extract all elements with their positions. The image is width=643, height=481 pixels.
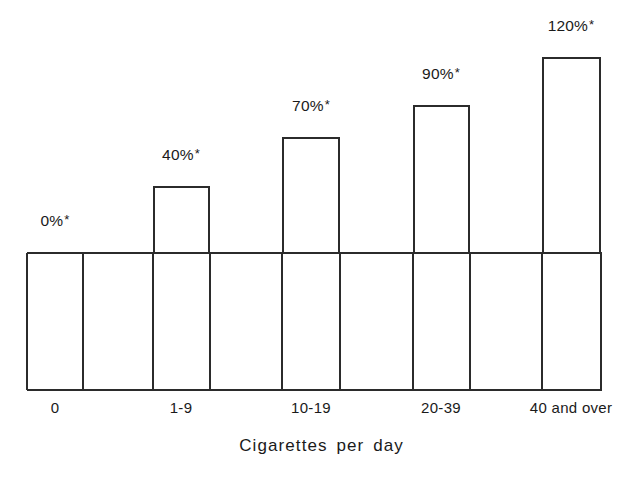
bar-40-and-over xyxy=(542,57,601,253)
value-label-10-19: 70%* xyxy=(292,97,330,115)
bar-1-9 xyxy=(153,186,210,253)
footnote-asterisk-icon: * xyxy=(195,146,200,161)
value-label-text: 40% xyxy=(162,146,194,163)
value-label-1-9: 40%* xyxy=(162,146,200,164)
chart-figure: 0%*40%*70%*90%*120%* 01-910-1920-3940 an… xyxy=(0,0,643,481)
grid-vline xyxy=(412,253,414,390)
bar-20-39 xyxy=(413,105,470,253)
grid-vline xyxy=(339,253,341,390)
category-label-10-19: 10-19 xyxy=(291,399,331,416)
plot-area: 0%*40%*70%*90%*120%* 01-910-1920-3940 an… xyxy=(0,0,643,481)
category-label-20-39: 20-39 xyxy=(421,399,461,416)
value-label-text: 90% xyxy=(422,65,454,82)
x-axis-title: Cigarettes per day xyxy=(0,436,643,456)
value-label-20-39: 90%* xyxy=(422,65,460,83)
footnote-asterisk-icon: * xyxy=(455,65,460,80)
grid-vline xyxy=(281,253,283,390)
bar-10-19 xyxy=(282,137,340,253)
grid-vline xyxy=(82,253,84,390)
grid-vline xyxy=(541,253,543,390)
category-label-0: 0 xyxy=(51,399,60,416)
value-label-text: 120% xyxy=(548,17,588,34)
grid-vline xyxy=(26,253,28,390)
value-label-0: 0%* xyxy=(40,212,69,230)
value-label-40-and-over: 120%* xyxy=(548,17,595,35)
grid-vline xyxy=(600,253,602,390)
grid-vline xyxy=(152,253,154,390)
category-label-40-and-over: 40 and over xyxy=(530,399,613,416)
footnote-asterisk-icon: * xyxy=(64,212,69,227)
value-label-text: 0% xyxy=(40,212,63,229)
footnote-asterisk-icon: * xyxy=(589,17,594,32)
value-label-text: 70% xyxy=(292,97,324,114)
grid-vline xyxy=(209,253,211,390)
grid-vline xyxy=(469,253,471,390)
footnote-asterisk-icon: * xyxy=(325,97,330,112)
category-label-1-9: 1-9 xyxy=(170,399,193,416)
bottom-axis-line xyxy=(27,389,602,391)
